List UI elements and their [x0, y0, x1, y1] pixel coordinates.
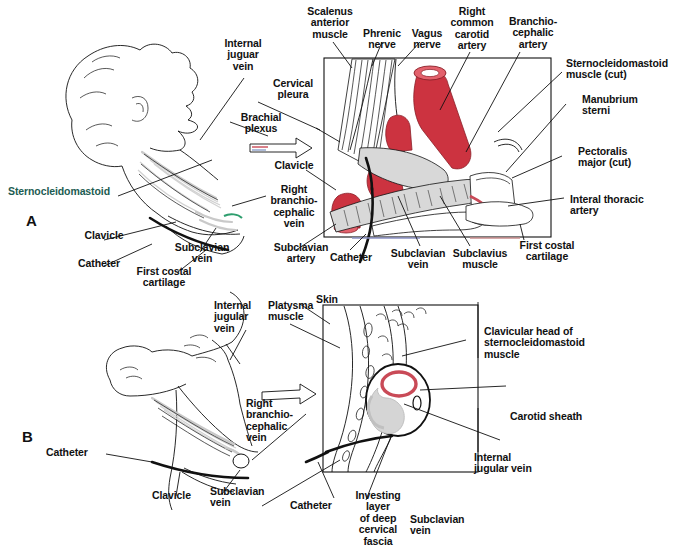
label-internal-thoracic-artery: Interal thoracic artery: [570, 194, 644, 217]
label-platysma-muscle: Platysma muscle: [268, 300, 313, 323]
label-cervical-pleura: Cervical pleura: [264, 78, 322, 101]
label-right-brachiocephalic-vein-a: Right branchio- cephalic vein: [264, 184, 324, 230]
label-brachiocephalic-artery: Branchio- cephalic artery: [504, 16, 562, 50]
label-subclavian-vein-b-left: Subclavian vein: [210, 486, 264, 509]
label-catheter-b-box: Catheter: [290, 500, 332, 511]
label-subclavian-vein-a-left: Subclavian vein: [170, 242, 234, 265]
figure-canvas: .ln{fill:none;stroke:#111;stroke-width:0…: [0, 0, 686, 559]
label-skin: Skin: [316, 294, 338, 305]
panel-b-leader-lines: [106, 302, 506, 506]
label-scalenus-anterior-muscle: Scalenus anterior muscle: [298, 6, 362, 40]
label-sternocleidomastoid-muscle-cut: Sternocleidomastoid muscle (cut): [566, 58, 668, 81]
label-clavicle-a-left: Clavicle: [78, 230, 130, 241]
label-subclavian-vein-b-box: Subclavian vein: [410, 514, 464, 537]
anatomy-artwork: .ln{fill:none;stroke:#111;stroke-width:0…: [0, 0, 686, 559]
label-right-common-carotid-artery: Right common carotid artery: [444, 6, 500, 52]
label-internal-jugular-vein-a: Internal juguar vein: [210, 38, 276, 72]
label-phrenic-nerve: Phrenic nerve: [356, 28, 408, 51]
label-subclavius-muscle: Subclavius muscle: [448, 248, 512, 271]
label-internal-jugular-vein-b-right: Internal jugular vein: [474, 452, 532, 475]
label-clavicle-a-mid: Clavicle: [268, 160, 320, 171]
label-catheter-a-box: Catheter: [324, 252, 378, 263]
label-manubrium-sterni: Manubrium sterni: [582, 94, 638, 117]
label-internal-jugular-vein-b: Internal jugular vein: [214, 300, 251, 334]
panel-letter-b: B: [22, 428, 33, 445]
label-investing-layer-deep-cervical-fascia: Investing layer of deep cervical fascia: [350, 490, 406, 547]
label-catheter-a-left: Catheter: [72, 258, 126, 269]
label-right-brachiocephalic-vein-b: Right branchio- cephalic vein: [246, 398, 293, 444]
label-clavicular-head-scm: Clavicular head of sternocleidomastoid m…: [484, 326, 585, 360]
label-brachial-plexus: Brachial plexus: [232, 112, 290, 135]
label-sternocleidomastoid: Sternocleidomastoid: [8, 186, 110, 197]
label-clavicle-b: Clavicle: [152, 490, 191, 501]
label-carotid-sheath: Carotid sheath: [510, 411, 582, 422]
label-first-costal-cartilage-a-left: First costal cartilage: [128, 266, 200, 289]
panel-letter-a: A: [26, 212, 37, 229]
label-first-costal-cartilage-a-right: First costal cartilage: [510, 240, 584, 263]
label-subclavian-vein-a-box: Subclavian vein: [386, 248, 450, 271]
label-pectoralis-major-cut: Pectoralis major (cut): [578, 146, 631, 169]
label-catheter-b-left: Catheter: [46, 447, 88, 458]
